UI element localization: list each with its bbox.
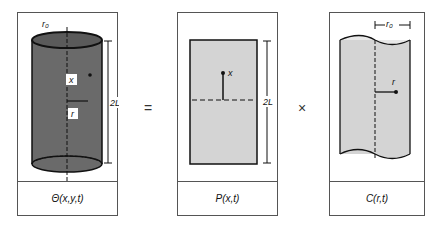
caption-C: C(r,t) <box>330 181 424 215</box>
times-sign: × <box>298 100 306 116</box>
finite-cylinder-figure: x r r₀ 2L <box>18 13 119 185</box>
label-r0: r₀ <box>42 19 49 29</box>
label-2L: 2L <box>262 97 273 107</box>
caption-P: P(x,t) <box>178 181 277 215</box>
label-2L: 2L <box>109 98 119 108</box>
panel-finite-cylinder: x r r₀ 2L Θ(x,y,t) <box>17 12 118 216</box>
label-x: x <box>227 68 233 78</box>
slab-figure: x 2L <box>178 13 279 185</box>
panel-infinite-slab: x 2L P(x,t) <box>177 12 278 216</box>
infinite-cylinder-figure: r r₀ <box>330 13 426 185</box>
label-x: x <box>68 75 74 85</box>
label-r0: r₀ <box>386 19 393 29</box>
panel-infinite-cylinder: r r₀ C(r,t) <box>329 12 425 216</box>
caption-theta: Θ(x,y,t) <box>18 181 117 215</box>
equals-sign: = <box>144 100 152 116</box>
